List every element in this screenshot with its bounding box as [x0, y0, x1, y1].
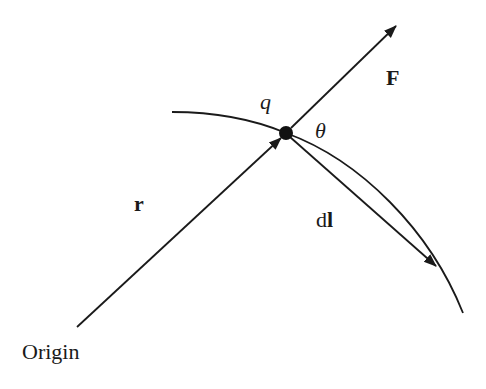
- charge-label: q: [260, 89, 271, 114]
- displacement-vector-dl: [290, 137, 436, 266]
- force-label: F: [386, 65, 399, 90]
- charge-point: [279, 126, 293, 140]
- force-vector-f: [291, 26, 396, 128]
- position-vector-r: [77, 138, 281, 327]
- angle-theta-label: θ: [315, 118, 326, 143]
- diagram-canvas: q F θ r dl Origin: [0, 0, 486, 389]
- origin-label: Origin: [22, 339, 79, 364]
- position-label: r: [134, 191, 144, 216]
- displacement-label: dl: [316, 207, 333, 232]
